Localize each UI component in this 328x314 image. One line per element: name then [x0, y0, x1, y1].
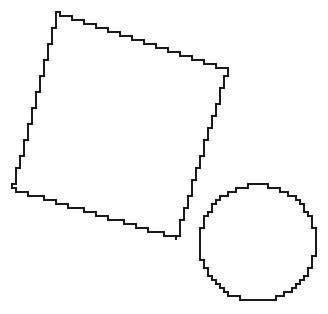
canvas-background: [0, 0, 328, 314]
shapes-svg: [0, 0, 328, 314]
figure-canvas: [0, 0, 328, 314]
